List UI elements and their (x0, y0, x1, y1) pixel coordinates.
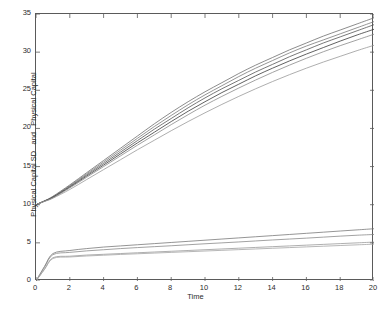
x-tick-label: 2 (57, 283, 81, 292)
x-tick-label: 4 (91, 283, 115, 292)
x-tick-label: 0 (23, 283, 47, 292)
series-line (36, 45, 374, 204)
y-tick-label: 0 (9, 275, 31, 284)
x-tick-label: 12 (226, 283, 250, 292)
x-tick-label: 20 (361, 283, 385, 292)
plot-area (35, 13, 373, 280)
plot-lines (36, 14, 374, 281)
x-tick-label: 8 (158, 283, 182, 292)
x-tick-label: 6 (124, 283, 148, 292)
x-axis-label: Time (0, 292, 391, 301)
x-tick-label: 16 (293, 283, 317, 292)
series-line (36, 242, 374, 281)
figure-canvas: 02468101214161820 05101520253035 Time Ph… (0, 0, 391, 313)
series-line (36, 29, 374, 204)
series-line (36, 18, 374, 205)
x-tick-label: 14 (260, 283, 284, 292)
y-tick-label: 35 (9, 8, 31, 17)
series-line (36, 234, 374, 281)
y-axis-label: Physical Capital SD and Physical Capital (29, 25, 38, 265)
x-tick-label: 18 (327, 283, 351, 292)
x-tick-label: 10 (192, 283, 216, 292)
